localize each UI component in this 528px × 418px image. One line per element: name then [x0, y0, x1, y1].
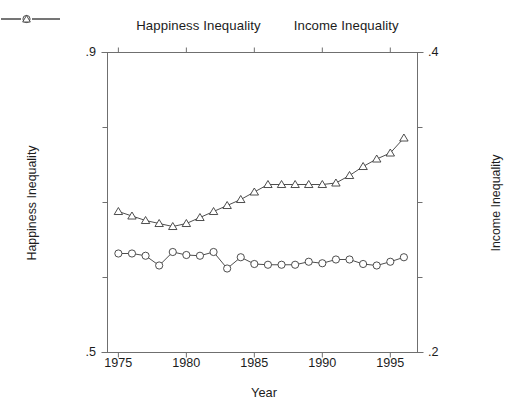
x-tick-label-1995: 1995	[376, 356, 404, 370]
data-point-happiness-inequality-1978	[156, 262, 163, 269]
y-left-tick-label-bottom: .5	[85, 345, 96, 359]
data-point-income-inequality-1977	[141, 217, 149, 224]
chart-page: Happiness Inequality Income Inequality H…	[0, 0, 528, 418]
data-point-income-inequality-1975	[114, 208, 122, 215]
x-axis-title: Year	[0, 385, 528, 400]
data-point-income-inequality-1991	[332, 179, 340, 186]
data-point-happiness-inequality-1982	[210, 248, 217, 255]
data-point-income-inequality-1987	[277, 181, 285, 188]
y-right-tick-label-top: .4	[428, 45, 439, 59]
data-point-happiness-inequality-1993	[360, 260, 367, 267]
data-point-happiness-inequality-1986	[264, 261, 271, 268]
x-tick-label-1980: 1980	[172, 356, 200, 370]
data-point-happiness-inequality-1987	[278, 261, 285, 268]
data-point-happiness-inequality-1988	[292, 261, 299, 268]
data-point-happiness-inequality-1995	[387, 258, 394, 265]
data-point-income-inequality-1985	[250, 188, 258, 195]
y-left-tick-label-top: .9	[85, 45, 96, 59]
series-line-income-inequality	[118, 138, 404, 227]
data-point-happiness-inequality-1990	[319, 260, 326, 267]
data-point-income-inequality-1986	[264, 181, 272, 188]
data-point-happiness-inequality-1985	[251, 260, 258, 267]
data-point-happiness-inequality-1994	[373, 262, 380, 269]
data-point-happiness-inequality-1981	[196, 252, 203, 259]
data-point-income-inequality-1980	[182, 220, 190, 227]
data-point-income-inequality-1994	[373, 155, 381, 162]
data-point-happiness-inequality-1992	[346, 256, 353, 263]
plot-frame	[108, 53, 418, 353]
data-point-income-inequality-1993	[359, 163, 367, 170]
data-point-happiness-inequality-1984	[237, 254, 244, 261]
data-series	[114, 134, 408, 272]
data-point-income-inequality-1976	[128, 212, 136, 219]
data-point-happiness-inequality-1979	[169, 248, 176, 255]
x-tick-label-1990: 1990	[308, 356, 336, 370]
data-point-income-inequality-1992	[345, 172, 353, 179]
data-point-happiness-inequality-1991	[332, 256, 339, 263]
data-point-income-inequality-1983	[223, 202, 231, 209]
data-point-income-inequality-1984	[237, 196, 245, 203]
data-point-happiness-inequality-1980	[183, 251, 190, 258]
data-point-happiness-inequality-1977	[142, 252, 149, 259]
data-point-happiness-inequality-1983	[224, 265, 231, 272]
y-axis-left-title: Happiness Inequality	[25, 138, 39, 268]
data-point-happiness-inequality-1975	[115, 250, 122, 257]
data-point-income-inequality-1982	[209, 208, 217, 215]
data-point-income-inequality-1989	[305, 181, 313, 188]
axis-ticks	[102, 48, 424, 358]
data-point-income-inequality-1988	[291, 181, 299, 188]
data-point-income-inequality-1996	[400, 134, 408, 141]
y-right-tick-label-bottom: .2	[428, 345, 439, 359]
y-axis-right-title: Income Inequality	[489, 138, 503, 268]
x-tick-label-1975: 1975	[104, 356, 132, 370]
data-point-happiness-inequality-1996	[400, 254, 407, 261]
x-tick-label-1985: 1985	[240, 356, 268, 370]
data-point-happiness-inequality-1976	[128, 250, 135, 257]
data-point-happiness-inequality-1989	[305, 258, 312, 265]
data-point-income-inequality-1981	[196, 214, 204, 221]
